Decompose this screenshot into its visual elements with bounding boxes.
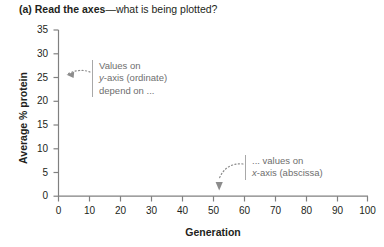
y-axis-callout-arrow <box>67 70 91 78</box>
x-axis-title: Generation <box>58 226 368 238</box>
x-tick-label-80: 80 <box>294 206 320 216</box>
y-tick-label-35: 35 <box>22 25 48 35</box>
x-axis-ticks <box>59 196 368 201</box>
plot-area: 35 30 25 20 15 10 5 0 0 10 20 30 40 50 6… <box>0 0 384 247</box>
x-tick-label-60: 60 <box>232 206 258 216</box>
y-axis-callout-line-2-rest: -axis (ordinate) <box>104 72 167 83</box>
x-tick-label-30: 30 <box>139 206 165 216</box>
x-axis-callout-line-1: ... values on <box>252 155 323 167</box>
x-tick-label-40: 40 <box>170 206 196 216</box>
x-tick-label-100: 100 <box>355 206 381 216</box>
x-axis-callout: ... values on x-axis (abscissa) <box>245 155 323 180</box>
y-axis-callout-line-1: Values on <box>99 60 167 72</box>
y-axis-title: Average % protein <box>17 48 29 188</box>
y-tick-label-0: 0 <box>22 191 48 201</box>
x-tick-label-10: 10 <box>77 206 103 216</box>
y-axis-callout-line-3: depend on ... <box>99 85 167 97</box>
x-tick-label-90: 90 <box>325 206 351 216</box>
y-axis-callout-line-2: y-axis (ordinate) <box>99 72 167 84</box>
y-axis-callout: Values on y-axis (ordinate) depend on ..… <box>92 60 167 97</box>
x-tick-label-70: 70 <box>263 206 289 216</box>
x-tick-label-50: 50 <box>201 206 227 216</box>
x-axis-callout-line-2: x-axis (abscissa) <box>252 167 323 179</box>
y-axis-ticks <box>54 30 59 196</box>
x-axis-callout-arrow <box>216 164 243 191</box>
x-tick-label-20: 20 <box>108 206 134 216</box>
x-axis-callout-line-2-rest: -axis (abscissa) <box>257 167 323 178</box>
x-tick-label-0: 0 <box>46 206 72 216</box>
